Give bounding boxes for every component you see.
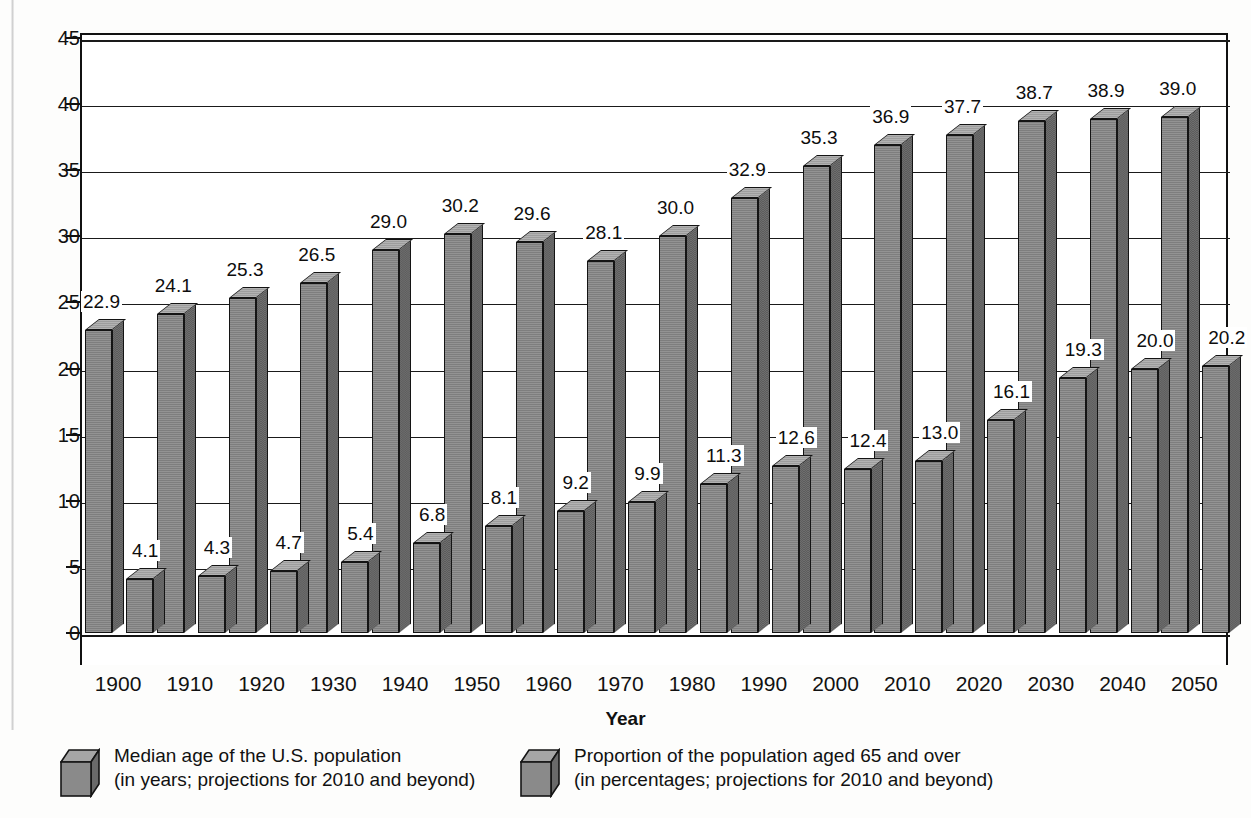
- bar-front-face: [915, 461, 942, 633]
- bar-front-face: [1059, 378, 1086, 633]
- x-axis-tick-label: 1910: [166, 672, 213, 696]
- bar-group: 30.28.1: [444, 33, 516, 665]
- bar-front-face: [772, 466, 799, 633]
- x-axis-tick-label: 2000: [812, 672, 859, 696]
- x-axis-tick-label: 2050: [1171, 672, 1218, 696]
- bar-side-face: [1014, 412, 1025, 633]
- bar-value-label: 5.4: [345, 523, 375, 544]
- x-axis-tick-label: 2010: [884, 672, 931, 696]
- bar-value-label: 19.3: [1063, 339, 1104, 360]
- bar-value-label: 30.0: [655, 197, 696, 218]
- legend: Median age of the U.S. population (in ye…: [0, 740, 1251, 810]
- bar: [1059, 378, 1086, 633]
- bar-side-face: [799, 458, 810, 633]
- bar-value-label: 9.2: [561, 472, 591, 493]
- bar-side-face: [256, 290, 267, 633]
- bar-value-label: 20.0: [1135, 330, 1176, 351]
- bar-front-face: [628, 502, 655, 633]
- bar-side-face: [686, 228, 697, 633]
- legend-item-median-age: Median age of the U.S. population (in ye…: [60, 744, 475, 798]
- bar-value-label: 13.0: [919, 422, 960, 443]
- bar-side-fill: [1230, 357, 1241, 633]
- cube-glyph: [520, 748, 560, 798]
- bar-side-fill: [185, 305, 196, 632]
- bar-side-face: [1117, 110, 1128, 633]
- bar: [700, 484, 727, 633]
- bar-value-label: 32.9: [727, 159, 768, 180]
- bar-side-face: [584, 503, 595, 633]
- bar: [772, 466, 799, 633]
- bar-side-fill: [656, 493, 667, 632]
- bar: [915, 461, 942, 633]
- bar-side-fill: [1087, 368, 1098, 632]
- bar-side-face: [1188, 109, 1199, 633]
- bar-side-fill: [113, 321, 124, 632]
- y-axis: 051015202530354045: [0, 33, 80, 665]
- legend-label-line2: (in years; projections for 2010 and beyo…: [114, 769, 475, 790]
- bar-side-fill: [943, 452, 954, 632]
- y-axis-tick-mark: [66, 632, 80, 634]
- bar-side-face: [399, 241, 410, 633]
- bar-value-label: 38.7: [1014, 82, 1055, 103]
- bar-value-label: 25.3: [225, 259, 266, 280]
- bar-group: 22.94.1: [85, 33, 157, 665]
- x-axis-tick-label: 2020: [956, 672, 1003, 696]
- bar-side-fill: [257, 289, 268, 632]
- bar: [85, 330, 112, 633]
- bar-side-face: [1229, 357, 1240, 633]
- bar-side-face: [871, 460, 882, 633]
- bar-value-label: 36.9: [870, 106, 911, 127]
- bar: [485, 526, 512, 633]
- x-axis-tick-label: 1940: [382, 672, 429, 696]
- bar-front-face: [270, 571, 297, 633]
- y-axis-tick-mark: [66, 434, 80, 436]
- bar-side-fill: [154, 569, 165, 632]
- bar-side-fill: [615, 252, 626, 632]
- bar-value-label: 4.1: [130, 540, 160, 561]
- bar-side-face: [297, 562, 308, 633]
- bars-layer: 22.94.124.14.325.34.726.55.429.06.830.28…: [80, 33, 1228, 665]
- cube-icon: [60, 748, 100, 798]
- bar-value-label: 38.9: [1086, 80, 1127, 101]
- bar-side-face: [973, 126, 984, 633]
- bar-side-face: [471, 225, 482, 633]
- x-axis-tick-label: 1920: [238, 672, 285, 696]
- chart-page: 051015202530354045 22.94.124.14.325.34.7…: [0, 0, 1251, 818]
- bar-side-face: [942, 453, 953, 633]
- bar-front-face: [1131, 369, 1158, 633]
- bar-side-face: [225, 568, 236, 633]
- bar-group: 38.719.3: [1018, 33, 1090, 665]
- bar-group: 37.716.1: [946, 33, 1018, 665]
- x-axis-tick-label: 2030: [1027, 672, 1074, 696]
- y-axis-tick-mark: [66, 169, 80, 171]
- bar-value-label: 16.1: [991, 381, 1032, 402]
- legend-label-line1: Median age of the U.S. population: [114, 745, 401, 766]
- bar-value-label: 12.4: [848, 430, 889, 451]
- bar: [628, 502, 655, 633]
- bar-side-face: [543, 233, 554, 633]
- bar-side-fill: [298, 561, 309, 632]
- bar-group: 25.34.7: [229, 33, 301, 665]
- bar-value-label: 4.3: [202, 537, 232, 558]
- legend-item-proportion-65-over: Proportion of the population aged 65 and…: [520, 744, 993, 798]
- bar-group: 29.69.2: [516, 33, 588, 665]
- legend-text-block: Proportion of the population aged 65 and…: [574, 744, 993, 792]
- bar-front-face: [700, 484, 727, 633]
- bar-group: 32.912.6: [731, 33, 803, 665]
- bar: [1131, 369, 1158, 633]
- bar: [557, 511, 584, 633]
- baseline: [82, 635, 1230, 637]
- bar-value-label: 29.0: [368, 211, 409, 232]
- bar-front-face: [844, 469, 871, 633]
- y-axis-tick-mark: [66, 566, 80, 568]
- bar: [1202, 366, 1229, 633]
- bar-value-label: 12.6: [776, 427, 817, 448]
- x-axis-tick-label: 1990: [740, 672, 787, 696]
- bar-value-label: 4.7: [274, 532, 304, 553]
- bar-side-fill: [400, 240, 411, 632]
- bar-front-face: [198, 576, 225, 633]
- bar-value-label: 35.3: [799, 127, 840, 148]
- bar-front-face: [987, 420, 1014, 633]
- bar-side-face: [727, 475, 738, 633]
- bar-side-face: [1158, 360, 1169, 633]
